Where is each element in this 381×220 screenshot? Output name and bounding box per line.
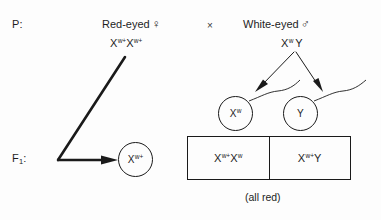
egg-genotype: Xw+ (128, 154, 143, 165)
male-offspring-genotype: Xw+Y (298, 152, 322, 164)
female-offspring-allele-1-superscript: w+ (222, 152, 231, 159)
offspring-cell-male: Xw+Y (270, 137, 351, 179)
sperm-y-base: Y (297, 108, 304, 119)
offspring-phenotype-caption: (all red) (245, 191, 281, 203)
sperm-cell-x: Xw (218, 96, 253, 131)
offspring-cell-female: Xw+Xw (188, 137, 270, 179)
sperm-tail-right-path (314, 80, 366, 101)
egg-cell: Xw+ (118, 142, 153, 177)
female-offspring-allele-2-base: X (230, 152, 238, 164)
male-offspring-allele-1-superscript: w+ (306, 152, 315, 159)
offspring-box: Xw+Xw Xw+Y (187, 136, 351, 180)
female-offspring-allele-2-superscript: w (238, 152, 243, 159)
sperm-cell-y: Y (283, 96, 318, 131)
egg-base: X (128, 154, 135, 165)
sperm-x-superscript: w (237, 107, 242, 114)
male-offspring-allele-1-base: X (298, 152, 306, 164)
female-offspring-allele-1-base: X (214, 152, 222, 164)
female-offspring-genotype: Xw+Xw (214, 152, 242, 164)
genetics-cross-diagram: P: F1: Red-eyed♀ × White-eyed♂ Xw+Xw+ Xw… (0, 0, 381, 220)
sperm-x-base: X (230, 108, 237, 119)
egg-superscript: w+ (135, 153, 144, 160)
sperm-tail-right (0, 0, 381, 220)
sperm-y-genotype: Y (297, 108, 304, 119)
male-offspring-allele-2-base: Y (314, 152, 322, 164)
sperm-x-genotype: Xw (230, 108, 242, 119)
